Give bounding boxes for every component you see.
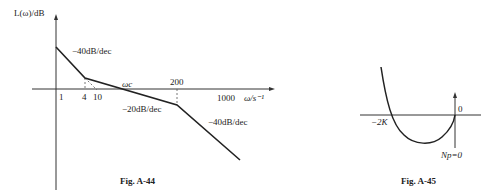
figure-caption-a45: Fig. A-45 — [401, 177, 436, 186]
tick-label-4: 4 — [82, 93, 87, 102]
vertical-axis-arrow-icon — [453, 92, 457, 98]
crossover-label: ωc — [122, 80, 132, 89]
figure-canvas — [0, 0, 481, 193]
x-axis-label: ω/s⁻¹ — [244, 94, 264, 103]
tick-label-1000: 1000 — [217, 94, 235, 103]
slope-label-1: −40dB/dec — [72, 47, 112, 56]
tick-label-1: 1 — [59, 93, 64, 102]
slope-label-2: −20dB/dec — [122, 105, 162, 114]
x-axis-arrow-icon — [269, 87, 275, 91]
y-axis-label: L(ω)/dB — [14, 9, 44, 18]
slope-label-3: −40dB/dec — [208, 118, 248, 127]
intercept-label: −2K — [371, 118, 388, 127]
y-axis-arrow-icon — [54, 14, 58, 20]
np-label: Np=0 — [441, 151, 462, 160]
figure-caption-a44: Fig. A-44 — [120, 177, 155, 186]
curve-line — [381, 67, 455, 143]
tick-label-200: 200 — [170, 78, 184, 87]
tick-label-10: 10 — [93, 93, 102, 102]
origin-label: 0 — [458, 105, 463, 114]
